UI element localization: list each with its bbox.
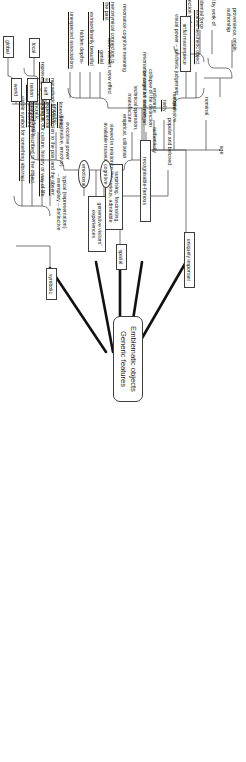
leaf-artful-masterpiece: artful masterpiece xyxy=(180,16,191,72)
branch-symbolic[interactable]: symbolic xyxy=(46,268,57,300)
leaf-visible-symbol-abstract: visible symbol for something abstract xyxy=(20,96,26,206)
leaf-exalted-aesthetic-object: exalted aesthetic object xyxy=(195,10,201,72)
leaf-collapse-distinction-art-nonart: collapse of the distinction between art … xyxy=(141,62,154,134)
leaf-popular-and-beloved: popular and beloved xyxy=(167,118,173,170)
center-node[interactable]: Emblematic objects Generic features xyxy=(113,316,143,402)
node-identity-global: global xyxy=(3,36,14,58)
node-identity-local: local xyxy=(29,38,40,58)
leaf-hidden-depths: hidden depths- xyxy=(79,30,85,72)
trunk-symbolic xyxy=(50,268,106,352)
leaf-technical-operation-manufacture: technical operation, manufacture xyxy=(126,82,139,134)
leaf-metonymical-connection-past-2: metonymical connection to the past xyxy=(103,2,116,66)
leaf-socio-cultural-role: socio-cultural role ascribed to the obje… xyxy=(30,92,36,206)
leaf-unexpected-associations: unexpected associations xyxy=(69,12,75,72)
node-age: age xyxy=(219,138,225,162)
node-rarity: rarity xyxy=(162,100,168,120)
bubble-emotional: emotional xyxy=(78,160,90,188)
branch-spatial[interactable]: spatial xyxy=(116,244,127,270)
branch-generative-visitors-experiences[interactable]: generative visitors' experiences xyxy=(88,196,106,252)
leaf-provenance-origin-authorship: provenance, origin, authorship xyxy=(225,8,238,68)
leaf-value-possessed-by-work-of-art: value possessed by work of art xyxy=(204,0,217,30)
diagram-canvas-wrapper: Emblematic objects Generic features uniq… xyxy=(0,0,246,762)
node-identity-nation: nation xyxy=(27,78,38,102)
node-typical-representation: typical (representation) – exemplary – d… xyxy=(55,164,68,240)
bubble-cognitive: cognitive xyxy=(100,160,112,188)
node-identity-world: world xyxy=(11,78,22,102)
node-nominal: nominal xyxy=(204,97,210,123)
branch-uniquely-important[interactable]: uniquely important xyxy=(184,232,195,288)
node-identity: identity xyxy=(31,120,37,144)
branch-recognisable-famous[interactable]: recognisable-famous xyxy=(140,140,151,222)
leaf-extraordinarily-beautiful: extraordinarily beautiful xyxy=(89,12,95,72)
node-identity-self: self xyxy=(41,82,52,100)
mind-map-canvas: Emblematic objects Generic features uniq… xyxy=(0,0,246,762)
node-resonance-cognitive-meaning-2: resonance-cognitive meaning xyxy=(122,4,128,72)
